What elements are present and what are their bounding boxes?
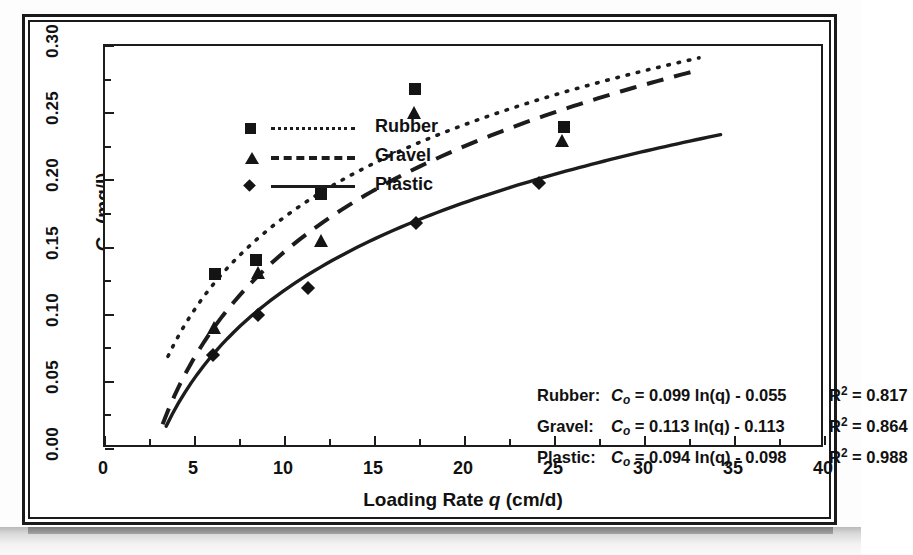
dotted-line-icon xyxy=(271,127,355,130)
equation-lhs-gravel: C xyxy=(611,417,623,435)
legend-label-rubber: Rubber xyxy=(375,116,438,137)
r2-value-gravel: = 0.864 xyxy=(848,417,908,435)
equation-lhs-plastic: C xyxy=(611,448,623,466)
data-point-rubber xyxy=(558,121,570,133)
scan-edge-shadow xyxy=(28,527,833,534)
solid-line-icon xyxy=(271,185,355,188)
r2-symbol-rubber: R xyxy=(829,386,841,404)
r2-exponent-gravel: 2 xyxy=(841,415,848,429)
legend-label-plastic: Plastic xyxy=(375,174,433,195)
equation-body-plastic: Co = 0.094 ln(q) - 0.098 xyxy=(611,448,829,469)
y-tick-label: 0.20 xyxy=(43,147,63,203)
x-axis-title-symbol: q xyxy=(489,489,501,510)
y-tick-label: 0.25 xyxy=(43,80,63,136)
square-marker-icon xyxy=(245,123,256,134)
equation-r2-plastic: R2 = 0.988 xyxy=(829,446,913,467)
equation-body-rubber: Co = 0.099 ln(q) - 0.055 xyxy=(611,386,829,407)
equation-body-gravel: Co = 0.113 ln(q) - 0.113 xyxy=(611,417,829,438)
r2-value-plastic: = 0.988 xyxy=(848,448,908,466)
regression-equations: Rubber: Co = 0.099 ln(q) - 0.055 R2 = 0.… xyxy=(537,384,913,477)
data-point-rubber xyxy=(209,268,221,280)
data-point-gravel xyxy=(251,266,265,279)
plot-area: Rubber Gravel Plastic Rubber: Co = 0.099… xyxy=(103,44,823,447)
equation-row-rubber: Rubber: Co = 0.099 ln(q) - 0.055 R2 = 0.… xyxy=(537,384,913,415)
x-tick-label: 10 xyxy=(260,458,306,479)
y-tick-label: 0.10 xyxy=(43,282,63,338)
equation-name-plastic: Plastic: xyxy=(537,448,611,467)
y-tick-label: 0.00 xyxy=(43,416,63,472)
r2-symbol-plastic: R xyxy=(829,448,841,466)
x-tick-label: 5 xyxy=(170,458,216,479)
equation-row-plastic: Plastic: Co = 0.094 ln(q) - 0.098 R2 = 0… xyxy=(537,446,913,477)
data-point-rubber xyxy=(250,254,262,266)
triangle-marker-icon xyxy=(245,152,259,164)
data-point-rubber xyxy=(409,83,421,95)
legend-label-gravel: Gravel xyxy=(375,145,431,166)
data-point-gravel xyxy=(555,134,569,147)
data-point-rubber xyxy=(315,188,327,200)
equation-expr-rubber: = 0.099 ln(q) - 0.055 xyxy=(630,386,786,404)
x-tick-label: 20 xyxy=(440,458,486,479)
y-tick-label: 0.05 xyxy=(43,349,63,405)
equation-r2-gravel: R2 = 0.864 xyxy=(829,415,913,436)
dashed-line-icon xyxy=(271,156,355,160)
x-tick-label: 15 xyxy=(350,458,396,479)
r2-value-rubber: = 0.817 xyxy=(848,386,908,404)
r2-exponent-plastic: 2 xyxy=(841,446,848,460)
equation-r2-rubber: R2 = 0.817 xyxy=(829,384,913,405)
x-axis-title: Loading Rate q (cm/d) xyxy=(103,489,823,511)
equation-name-rubber: Rubber: xyxy=(537,386,611,405)
equation-lhs-rubber: C xyxy=(611,386,623,404)
x-axis-title-text2: (cm/d) xyxy=(500,489,562,510)
equation-name-gravel: Gravel: xyxy=(537,417,611,436)
y-tick-label: 0.30 xyxy=(43,13,63,69)
curve-rubber xyxy=(168,58,699,356)
data-point-gravel xyxy=(207,321,221,334)
r2-exponent-rubber: 2 xyxy=(841,384,848,398)
y-tick-label: 0.15 xyxy=(43,215,63,271)
data-point-gravel xyxy=(314,234,328,247)
x-tick-label: 0 xyxy=(80,458,126,479)
x-axis-title-text1: Loading Rate xyxy=(363,489,489,510)
equation-row-gravel: Gravel: Co = 0.113 ln(q) - 0.113 R2 = 0.… xyxy=(537,415,913,446)
equation-expr-plastic: = 0.094 ln(q) - 0.098 xyxy=(630,448,786,466)
equation-expr-gravel: = 0.113 ln(q) - 0.113 xyxy=(630,417,785,435)
r2-symbol-gravel: R xyxy=(829,417,841,435)
